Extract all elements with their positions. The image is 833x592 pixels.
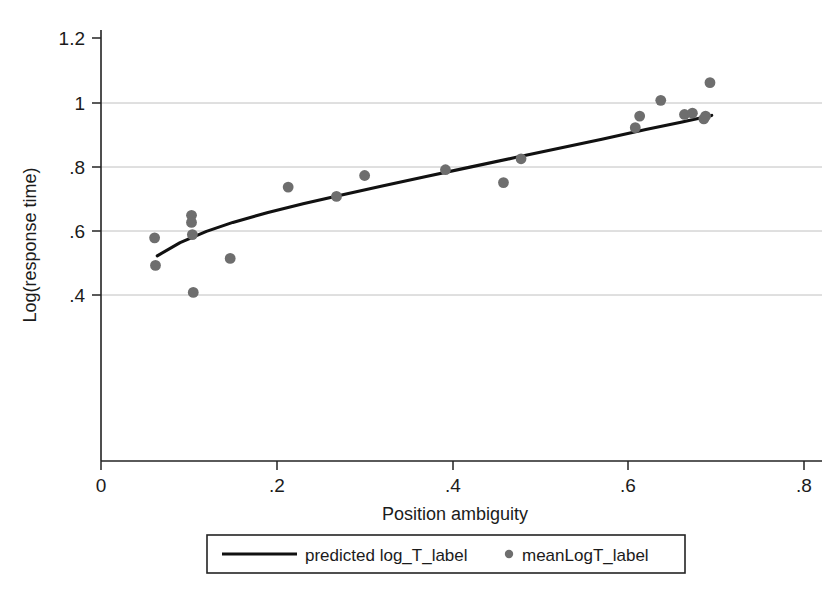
y-tick-marks — [92, 38, 101, 295]
legend-label-predicted: predicted log_T_label — [305, 546, 468, 565]
scatter-point — [150, 260, 161, 271]
y-tick-labels: 1.2 1 .8 .6 .4 — [59, 28, 86, 306]
y-tick-label-0.4: .4 — [69, 285, 85, 306]
scatter-point — [516, 153, 527, 164]
gridlines — [101, 38, 822, 295]
scatter-point — [187, 229, 198, 240]
x-tick-labels: 0 .2 .4 .6 .8 — [96, 475, 812, 496]
scatter-point — [186, 217, 197, 228]
x-tick-label-0: 0 — [96, 475, 107, 496]
scatter-plot-svg: 1.2 1 .8 .6 .4 0 .2 .4 .6 .8 Position am… — [0, 0, 833, 592]
scatter-point — [359, 170, 370, 181]
legend: predicted log_T_label meanLogT_label — [207, 535, 685, 573]
scatter-point — [188, 287, 199, 298]
scatter-point — [700, 111, 711, 122]
x-axis-title: Position ambiguity — [382, 504, 528, 524]
scatter-point — [225, 253, 236, 264]
scatter-point — [705, 77, 716, 88]
scatter-points-series — [149, 77, 715, 298]
y-tick-label-1.2: 1.2 — [59, 28, 85, 49]
y-tick-label-0.6: .6 — [69, 221, 85, 242]
y-tick-label-0.8: .8 — [69, 157, 85, 178]
scatter-point — [440, 164, 451, 175]
x-tick-label-0.2: .2 — [269, 475, 285, 496]
y-axis-title: Log(response time) — [20, 167, 40, 322]
x-tick-label-0.4: .4 — [445, 475, 461, 496]
scatter-point — [630, 122, 641, 133]
y-tick-label-1: 1 — [74, 93, 85, 114]
scatter-point — [655, 95, 666, 106]
chart-figure: 1.2 1 .8 .6 .4 0 .2 .4 .6 .8 Position am… — [0, 0, 833, 592]
predicted-fit-line — [157, 115, 711, 255]
scatter-point — [149, 232, 160, 243]
x-tick-label-0.6: .6 — [620, 475, 636, 496]
scatter-point — [634, 111, 645, 122]
scatter-point — [687, 108, 698, 119]
scatter-point — [331, 191, 342, 202]
x-tick-label-0.8: .8 — [796, 475, 812, 496]
x-tick-marks — [101, 461, 804, 470]
scatter-point — [498, 177, 509, 188]
legend-label-mean: meanLogT_label — [522, 546, 649, 565]
legend-dot-swatch — [505, 550, 513, 558]
scatter-point — [283, 182, 294, 193]
fitted-line-series — [157, 115, 711, 255]
